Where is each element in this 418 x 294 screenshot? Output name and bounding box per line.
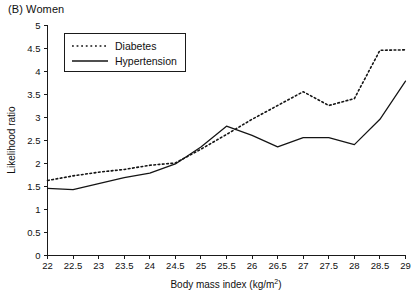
y-axis: 00.511.522.533.544.55 Likelihood ratio [6,20,48,261]
x-axis-title-main: Body mass index (kg/m [170,279,274,290]
x-axis-title-suffix: ) [278,279,281,290]
likelihood-ratio-line-chart: 00.511.522.533.544.55 Likelihood ratio 2… [0,0,418,294]
x-tick-label: 22.5 [64,260,83,271]
y-tick-label: 4.5 [27,43,40,54]
x-tick-label: 28 [349,260,360,271]
y-tick-label: 5 [35,20,40,31]
x-tick-label: 24.5 [166,260,185,271]
legend-label-hypertension: Hypertension [115,55,177,67]
x-tick-label: 27 [298,260,309,271]
y-tick-label: 2.5 [27,135,40,146]
y-axis-ticks [44,25,48,255]
x-tick-label: 24 [144,260,155,271]
x-tick-label: 26.5 [268,260,287,271]
y-tick-label: 1.5 [27,181,40,192]
y-tick-label: 1 [35,204,40,215]
y-tick-label: 2 [35,158,40,169]
x-tick-label: 22 [42,260,53,271]
legend-label-diabetes: Diabetes [115,40,156,52]
y-axis-title: Likelihood ratio [6,106,17,174]
x-tick-label: 28.5 [371,260,390,271]
chart-figure: (B) Women 00.511.522.533.544.55 Likeliho… [0,0,418,294]
x-axis-title: Body mass index (kg/m2) [170,278,281,290]
x-axis: 2222.52323.52424.52525.52626.52727.52828… [42,255,411,290]
y-tick-label: 0.5 [27,227,40,238]
series-hypertension-line [48,81,406,190]
x-tick-label: 25 [196,260,207,271]
x-tick-label: 23 [93,260,104,271]
y-tick-label: 3 [35,112,40,123]
x-tick-label: 23.5 [115,260,134,271]
x-tick-label: 26 [247,260,258,271]
y-tick-label: 4 [35,66,40,77]
legend: Diabetes Hypertension [65,34,186,72]
x-tick-label: 27.5 [320,260,339,271]
y-axis-tick-labels: 00.511.522.533.544.55 [27,20,40,261]
x-tick-label: 25.5 [217,260,236,271]
y-tick-label: 3.5 [27,89,40,100]
y-tick-label: 0 [35,250,40,261]
x-axis-tick-labels: 2222.52323.52424.52525.52626.52727.52828… [42,260,411,271]
x-tick-label: 29 [400,260,411,271]
